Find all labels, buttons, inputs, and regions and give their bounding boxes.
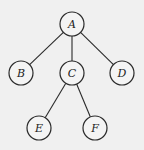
nodes-group: ABCDEF: [9, 12, 134, 140]
edge-c-e: [45, 83, 66, 117]
edge-c-f: [77, 84, 91, 117]
node-a: A: [60, 12, 84, 36]
tree-diagram: ABCDEF: [0, 0, 144, 150]
node-label: A: [67, 18, 76, 31]
tree-svg: ABCDEF: [0, 0, 144, 150]
node-c: C: [60, 61, 84, 85]
node-label: C: [68, 67, 77, 80]
node-label: E: [34, 122, 43, 135]
node-f: F: [83, 116, 107, 140]
edge-a-b: [30, 32, 64, 64]
edge-a-d: [81, 32, 114, 64]
node-label: B: [16, 67, 25, 80]
node-label: F: [90, 122, 99, 135]
node-e: E: [27, 116, 51, 140]
node-d: D: [110, 61, 134, 85]
node-label: D: [117, 67, 127, 80]
node-b: B: [9, 61, 33, 85]
